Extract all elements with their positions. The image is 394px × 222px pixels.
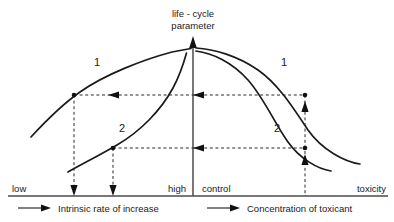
left-panel: 1 2 low high Intrinsic rate of increase — [12, 49, 193, 215]
left-legend-arrowhead-icon — [41, 205, 51, 212]
vertical-axis — [189, 36, 197, 196]
left-curve-label-1: 1 — [94, 56, 100, 68]
left-curve-species-2 — [68, 53, 187, 172]
axis-arrowhead-lower — [193, 145, 204, 152]
left-scale-label-high: high — [168, 183, 186, 194]
right-curve-label-1: 1 — [281, 56, 287, 68]
vertical-axis-arrowhead — [189, 36, 197, 48]
left-guide-vertical-species-2-arrowhead — [109, 185, 116, 196]
right-legend-label: Concentration of toxicant — [247, 203, 352, 214]
right-guide-arrowhead-upper — [301, 101, 308, 112]
right-scale-label-control: control — [202, 183, 231, 194]
life-cycle-parameter-diagram: life - cycle parameter 1 2 — [0, 0, 394, 222]
right-curve-label-2: 2 — [274, 122, 280, 134]
left-intersection-dot-species-1 — [72, 93, 77, 98]
right-intersection-dot-species-1 — [303, 93, 308, 98]
left-curve-label-2: 2 — [119, 122, 125, 134]
left-legend: Intrinsic rate of increase — [18, 203, 159, 214]
right-scale-label-toxicity: toxicity — [357, 183, 386, 194]
right-guide-arrowhead-lower — [301, 154, 308, 165]
axis-arrowhead-upper — [193, 92, 204, 99]
right-legend: Concentration of toxicant — [207, 203, 352, 214]
right-curve-species-1 — [196, 48, 360, 164]
axis-title-line-1: life - cycle — [172, 8, 214, 19]
left-legend-label: Intrinsic rate of increase — [58, 203, 159, 214]
axis-title-line-2: parameter — [171, 20, 214, 31]
figure-container: life - cycle parameter 1 2 — [0, 0, 394, 222]
left-guide-vertical-species-1-arrowhead — [70, 185, 77, 196]
right-panel: 1 2 control toxicity Concentration of to… — [193, 48, 386, 214]
left-intersection-dot-species-2 — [111, 146, 116, 151]
left-curve-species-1 — [31, 49, 191, 138]
left-guide-horizontal-species-1-arrowhead — [108, 92, 119, 99]
right-legend-arrowhead-icon — [230, 205, 240, 212]
right-curve-species-2 — [196, 51, 331, 171]
left-scale-label-low: low — [12, 183, 26, 194]
right-intersection-dot-species-2 — [303, 146, 308, 151]
